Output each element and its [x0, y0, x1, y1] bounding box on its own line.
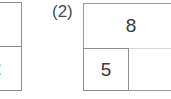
left-lower-cell-label: 2	[0, 59, 1, 78]
left-rectangle-diagram: 2	[0, 2, 22, 91]
right-top-region: 8	[83, 3, 171, 48]
left-upper-cell	[0, 2, 22, 46]
right-inner-region-label: 5	[101, 60, 112, 79]
right-empty-region	[129, 48, 171, 91]
problem-number-label: (2)	[52, 3, 73, 20]
right-inner-region: 5	[83, 48, 129, 91]
figure-sheet: 2 (2) 8 5	[0, 0, 171, 99]
right-top-region-label: 8	[126, 16, 137, 35]
left-lower-cell: 2	[0, 46, 22, 91]
right-rectangle-diagram: 8 5	[83, 3, 171, 91]
